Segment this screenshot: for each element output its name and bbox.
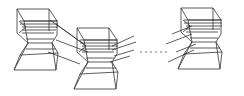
diagram-canvas xyxy=(0,0,244,96)
block-unit-1 xyxy=(14,9,58,70)
ellipsis-dots xyxy=(140,51,166,52)
block-unit-3 xyxy=(178,8,222,69)
block-unit-2 xyxy=(74,28,118,89)
